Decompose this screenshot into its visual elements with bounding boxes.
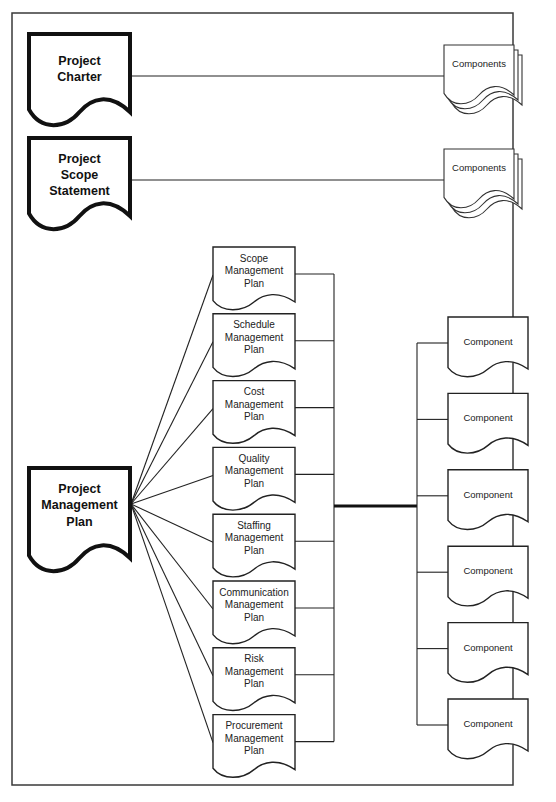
node-label-line: Plan [244,411,264,422]
node-label-line: Cost [244,386,265,397]
node-label-line: Charter [57,70,102,84]
component-label: Component [463,718,512,729]
node-label-line: Project [58,152,101,166]
node-label-line: Plan [244,545,264,556]
node-label-line: Management [225,666,284,677]
node-label-line: Plan [66,515,92,529]
node-label-line: Plan [244,745,264,756]
node-label-line: Staffing [237,520,271,531]
node-label-line: Management [225,599,284,610]
stacked-components-project-charter: Components [444,45,522,114]
component-document: Component [448,470,528,530]
plan-scope: ScopeManagementPlan [213,247,295,310]
node-label-line: Statement [49,184,110,198]
plan-quality: QualityManagementPlan [213,447,295,510]
node-label-line: Project [58,54,101,68]
component-document: Component [448,317,528,377]
component-document: Component [448,546,528,606]
components-label: Components [452,58,506,69]
node-label-line: Plan [244,612,264,623]
plan-procurement: ProcurementManagementPlan [213,715,295,778]
stacked-components-project-scope-statement: Components [444,149,522,218]
node-label-line: Plan [244,344,264,355]
component-document: Component [448,623,528,683]
plan-risk: RiskManagementPlan [213,648,295,711]
node-label-line: Management [225,532,284,543]
node-label-line: Project [58,482,101,496]
node-label-line: Management [225,733,284,744]
component-document: Component [448,393,528,453]
component-label: Component [463,336,512,347]
node-label-line: Management [225,332,284,343]
node-label-line: Risk [244,653,264,664]
node-label-line: Management [225,465,284,476]
node-label-line: Scope [240,253,269,264]
plan-cost: CostManagementPlan [213,381,295,444]
component-label: Component [463,642,512,653]
pmp-to-plan-line [131,504,213,743]
node-label-line: Plan [244,278,264,289]
plan-staffing: StaffingManagementPlan [213,514,295,577]
node-label-line: Plan [244,678,264,689]
document-nodes: ProjectCharterComponentsProjectScopeStat… [29,34,528,777]
node-label-line: Schedule [233,319,275,330]
pmp-to-plan-line [131,504,213,676]
diagram-canvas: ProjectCharterComponentsProjectScopeStat… [0,0,556,802]
node-label-line: Management [225,265,284,276]
component-label: Component [463,565,512,576]
node-label-line: Quality [238,453,269,464]
document-project-charter: ProjectCharter [29,34,130,125]
component-label: Component [463,412,512,423]
node-label-line: Plan [244,478,264,489]
node-label-line: Management [225,399,284,410]
node-label-line: Procurement [225,720,282,731]
components-label: Components [452,162,506,173]
node-label-line: Management [41,498,118,512]
component-document: Component [448,699,528,759]
document-project-scope-statement: ProjectScopeStatement [29,138,130,229]
plan-schedule: ScheduleManagementPlan [213,314,295,377]
node-label-line: Scope [61,168,99,182]
pmp-to-plan-line [131,504,213,609]
node-label-line: Communication [219,587,288,598]
pmp-to-plan-line [131,504,213,542]
document-project-management-plan: ProjectManagementPlan [29,468,130,571]
plan-communication: CommunicationManagementPlan [213,581,295,644]
component-label: Component [463,489,512,500]
pmp-to-plan-line [131,275,213,504]
